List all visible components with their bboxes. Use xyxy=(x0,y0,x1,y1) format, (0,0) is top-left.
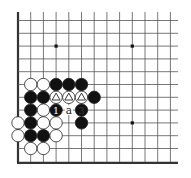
white-stone-icon xyxy=(37,117,49,129)
black-stone-icon: 1 xyxy=(50,104,62,116)
go-board: 13 a xyxy=(0,0,191,178)
star-point-icon xyxy=(55,45,58,48)
black-stone-icon xyxy=(88,91,100,103)
black-stone-icon xyxy=(63,78,75,90)
white-stone-icon xyxy=(37,142,49,154)
black-stone-icon xyxy=(37,130,49,142)
go-board-diagram: 13 a xyxy=(0,0,191,178)
black-stone-icon xyxy=(25,104,37,116)
move-number-label: 1 xyxy=(53,105,59,116)
black-stone-icon xyxy=(75,78,87,90)
white-stone-icon xyxy=(50,117,62,129)
point-label-a: a xyxy=(66,104,72,116)
point-labels: a xyxy=(65,104,73,116)
white-stone-icon xyxy=(37,104,49,116)
black-stone-icon xyxy=(25,117,37,129)
white-stone-icon xyxy=(50,130,62,142)
white-stone-icon xyxy=(12,130,24,142)
black-stone-icon xyxy=(25,130,37,142)
black-stone-icon xyxy=(25,91,37,103)
white-stone-icon xyxy=(50,91,62,103)
white-stone-icon xyxy=(63,91,75,103)
white-stone-icon xyxy=(12,117,24,129)
white-stone-icon xyxy=(75,91,87,103)
black-stone-icon: 3 xyxy=(75,104,87,116)
star-point-icon xyxy=(131,45,134,48)
black-stone-icon xyxy=(50,78,62,90)
black-stone-icon xyxy=(37,91,49,103)
white-stone-icon xyxy=(25,142,37,154)
star-point-icon xyxy=(131,121,134,124)
white-stone-icon xyxy=(37,78,49,90)
black-stone-icon xyxy=(75,117,87,129)
white-stone-icon xyxy=(25,78,37,90)
move-number-label: 3 xyxy=(78,105,84,116)
